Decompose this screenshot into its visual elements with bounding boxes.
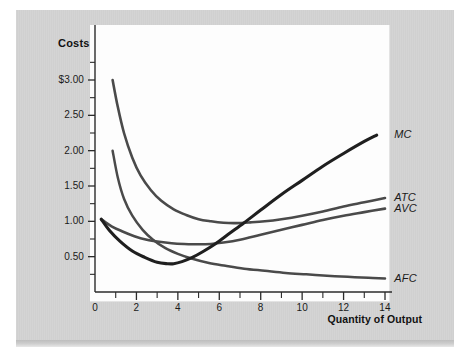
x-tick-label: 8 bbox=[249, 302, 273, 313]
x-tick-label: 0 bbox=[83, 302, 107, 313]
cost-curves-group bbox=[101, 80, 385, 279]
cost-curves-figure: Costs Quantity of Output 0.501.001.502.0… bbox=[0, 0, 462, 357]
curve-label-afc: AFC bbox=[394, 272, 417, 284]
x-tick-label: 10 bbox=[290, 302, 314, 313]
y-tick-label: 2.50 bbox=[34, 109, 84, 120]
x-tick-label: 12 bbox=[332, 302, 356, 313]
curve-mc bbox=[101, 135, 377, 264]
y-tick-label: $3.00 bbox=[34, 74, 84, 85]
curve-label-mc: MC bbox=[394, 128, 412, 140]
x-tick-label: 6 bbox=[207, 302, 231, 313]
axis-ticks-group bbox=[88, 62, 385, 300]
x-tick-label: 4 bbox=[166, 302, 190, 313]
y-tick-label: 0.50 bbox=[34, 251, 84, 262]
x-tick-label: 2 bbox=[124, 302, 148, 313]
y-tick-label: 1.50 bbox=[34, 180, 84, 191]
curve-label-avc: AVC bbox=[394, 202, 417, 214]
y-tick-label: 1.00 bbox=[34, 215, 84, 226]
curve-avc bbox=[101, 209, 385, 245]
y-tick-label: 2.00 bbox=[34, 145, 84, 156]
x-tick-label: 14 bbox=[373, 302, 397, 313]
